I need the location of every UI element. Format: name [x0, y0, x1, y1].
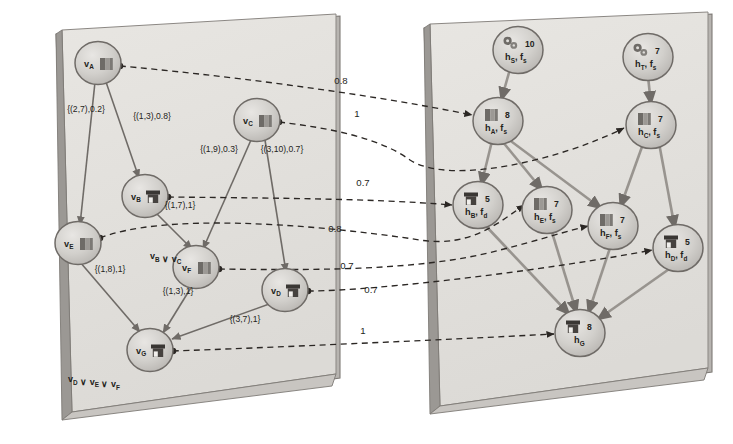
book-icon — [600, 214, 613, 226]
task-node-vB[interactable]: vB — [122, 175, 168, 218]
edge-label-vC-vF: {(1,9),0.3} — [200, 144, 238, 154]
task-node-vF[interactable]: vF — [173, 246, 219, 289]
disjunction-vF: vB ∨ vC — [150, 251, 182, 265]
node-count: 7 — [658, 114, 663, 124]
node-count: 5 — [685, 237, 690, 247]
disjunction-vG: vD ∨ vE ∨ vF — [68, 374, 120, 391]
node-count: 7 — [620, 215, 625, 225]
mapping-weight-vC-hC: 1 — [354, 108, 359, 119]
node-count: 8 — [505, 110, 510, 120]
node-count: 7 — [554, 199, 559, 209]
edge-label-vE-vG: {(1,8),1} — [95, 264, 126, 274]
edge-label-vF-vG: {(1,3),1} — [163, 286, 194, 296]
node-count: 7 — [655, 46, 660, 56]
resource-node-hF[interactable]: 7hF, fs — [588, 203, 638, 250]
mapping-weight-vF-hF: 0.7 — [340, 260, 353, 271]
resource-node-hE[interactable]: 7hE, fs — [522, 187, 572, 234]
labels-and-nodes-overlay: vAvCvBvEvFvDvG 10hS, fs7hT, fs8hA, fs7hC… — [0, 0, 733, 444]
resource-node-hC[interactable]: 7hC, fs — [626, 102, 676, 149]
book-icon — [198, 262, 211, 274]
node-count: 8 — [587, 322, 592, 332]
container-icon — [286, 285, 300, 298]
container-icon — [664, 236, 678, 249]
task-node-vE[interactable]: vE — [55, 222, 101, 265]
node-count: 5 — [485, 194, 490, 204]
resource-node-hG[interactable]: 8hG — [555, 310, 605, 357]
container-icon — [464, 193, 478, 206]
container-icon — [146, 191, 160, 204]
book-icon — [259, 115, 272, 127]
book-icon — [100, 58, 113, 70]
container-icon — [151, 345, 165, 358]
resource-node-hD[interactable]: 5hD, fd — [653, 225, 703, 272]
task-node-vC[interactable]: vC — [234, 99, 280, 142]
resource-node-hS[interactable]: 10hS, fs — [493, 27, 543, 74]
edge-label-vB-vF: {(1,7),1} — [165, 200, 196, 210]
node-count: 10 — [525, 39, 535, 49]
edge-label-vA-vB: {(1,3),0.8} — [133, 111, 171, 121]
edge-label-vC-vD: {(3,10),0.7} — [261, 144, 304, 154]
mapping-weight-vB-hB: 0.7 — [356, 177, 369, 188]
book-icon — [485, 109, 498, 121]
book-icon — [80, 238, 93, 250]
resource-node-hT[interactable]: 7hT, fs — [623, 34, 673, 81]
resource-node-hB[interactable]: 5hB, fd — [453, 182, 503, 229]
edge-label-vA-vE: {(2,7),0.2} — [67, 104, 105, 114]
resource-node-hA[interactable]: 8hA, fs — [473, 98, 523, 145]
mapping-weight-vG-hG: 1 — [360, 325, 365, 336]
edge-label-vD-vG: {(3,7),1} — [230, 314, 261, 324]
mapping-weight-vA-hA: 0.8 — [334, 75, 347, 86]
mapping-weight-vD-hD: 0.7 — [364, 284, 377, 295]
mapping-weight-vE-hE: 0.8 — [328, 223, 341, 234]
book-icon — [534, 198, 547, 210]
task-node-vG[interactable]: vG — [127, 329, 173, 372]
book-icon — [638, 113, 651, 125]
task-node-vD[interactable]: vD — [262, 269, 308, 312]
figure-canvas: vAvCvBvEvFvDvG 10hS, fs7hT, fs8hA, fs7hC… — [0, 0, 733, 444]
task-node-vA[interactable]: vA — [75, 42, 121, 85]
container-icon — [566, 321, 580, 334]
